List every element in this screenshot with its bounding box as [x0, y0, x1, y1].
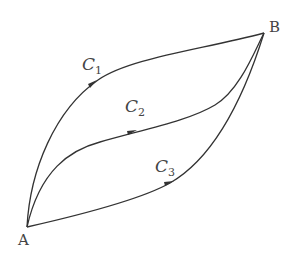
label-c1: C1 — [82, 54, 102, 77]
point-a-label: A — [17, 231, 29, 249]
point-b-label: B — [269, 18, 280, 36]
path-diagram: C1 C2 C3 A B — [0, 0, 298, 263]
curve-c2 — [27, 33, 264, 227]
arrow-c3-icon — [164, 181, 174, 186]
label-c2: C2 — [125, 96, 145, 119]
label-c3: C3 — [155, 156, 175, 179]
